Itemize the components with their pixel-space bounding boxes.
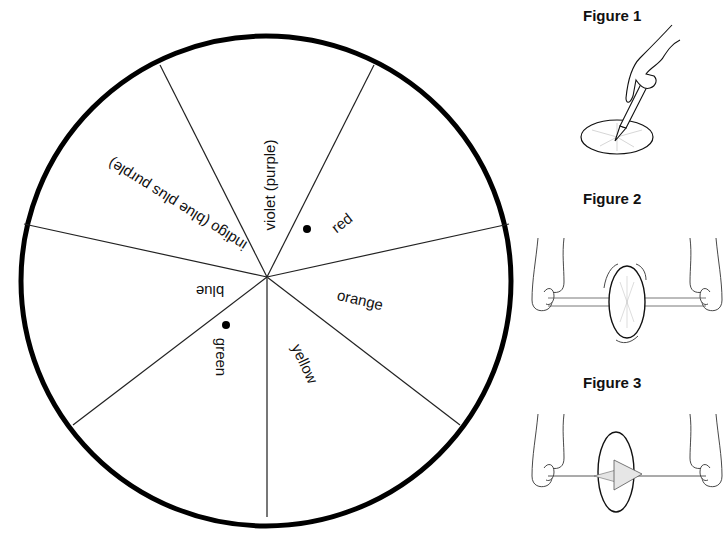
color-wheel: red orange yellow green blue indigo (blu… bbox=[0, 0, 530, 538]
wheel-outline bbox=[21, 36, 511, 526]
figure-1-illustration bbox=[560, 20, 710, 170]
segment-label-blue: blue bbox=[196, 283, 224, 300]
left-hand-icon bbox=[532, 238, 564, 311]
hand-icon bbox=[626, 25, 680, 102]
segment-label-green: green bbox=[213, 338, 230, 376]
right-hand-icon bbox=[690, 238, 722, 311]
figure-3-title: Figure 3 bbox=[583, 374, 641, 391]
hole-dot-green bbox=[222, 321, 230, 329]
blurred-disk-icon bbox=[594, 432, 642, 512]
figure-3-illustration bbox=[530, 410, 724, 538]
spinning-disk-icon bbox=[604, 264, 646, 343]
figure-2-title: Figure 2 bbox=[583, 190, 641, 207]
segment-label-violet: violet (purple) bbox=[261, 140, 278, 231]
hole-dot-red bbox=[303, 225, 311, 233]
figure-2-illustration bbox=[530, 230, 724, 360]
